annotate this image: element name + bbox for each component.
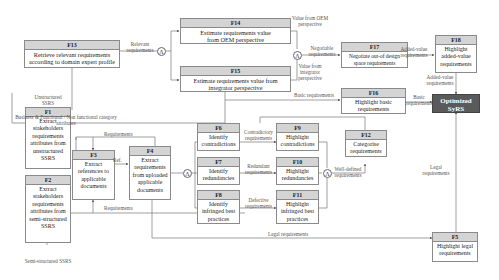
box-id: F12 xyxy=(346,131,386,140)
function-box-f10: F10 Highlight redundancies xyxy=(276,157,319,185)
box-text: Retrieve relevant requirements according… xyxy=(25,50,119,67)
label-contradictory-requirements: Contradictory requirements xyxy=(240,129,277,141)
box-id: F5 xyxy=(433,233,477,242)
label-value-from-oem: Value from OEM perspective xyxy=(292,15,328,27)
box-id: F10 xyxy=(277,158,318,167)
function-box-f16: F16 Highlight basic requirements xyxy=(341,88,406,114)
box-text: Highlight legal requirements xyxy=(433,242,477,259)
label-legal-requirements-1: Legal requirements xyxy=(268,231,308,237)
label-business-functional: Business & Functional / Non functional c… xyxy=(14,114,118,126)
function-box-f3: F3 Extract references to applicable docu… xyxy=(72,150,115,200)
function-box-f15: F15 Estimate requirements value from int… xyxy=(180,66,291,92)
box-text: Identify redundancies xyxy=(198,167,239,184)
label-well-defined-requirements: Well-defined requirements xyxy=(331,166,365,178)
box-text: Highlight redundancies xyxy=(277,167,318,184)
label-added-value-requirements-2: Added-value requirements xyxy=(420,74,460,86)
box-text: Highlight basic requirements xyxy=(342,98,405,115)
function-box-f18: F18 Highlight added-value requirements xyxy=(435,35,477,73)
label-basic-requirements-1: Basic requirements xyxy=(294,92,334,98)
output-line-2: SyRS xyxy=(434,105,478,113)
function-box-f2: F2 Extract stakeholders requirements att… xyxy=(25,175,71,243)
box-text: Extract requirements from uploaded appli… xyxy=(130,156,170,195)
function-box-f9: F9 Highlight contradictions xyxy=(276,123,319,151)
and-junction-3: Λ xyxy=(183,169,192,178)
label-value-from-integrator: Value from integrator perspective xyxy=(292,63,328,81)
box-text: Estimate requirements value from integra… xyxy=(181,76,290,93)
box-id: F7 xyxy=(198,158,239,167)
label-requirements-bottom: Requirements xyxy=(104,205,133,211)
box-text: Highlight contradictions xyxy=(277,133,318,150)
and-junction-2: Λ xyxy=(293,51,302,60)
box-text: Extract stakeholders requirements attrib… xyxy=(26,185,70,231)
function-box-f8: F8 Identify infringed best practices xyxy=(197,190,240,224)
label-added-value-requirements-1: Added-value requirements xyxy=(394,46,434,58)
label-unstructured-ssrs: Unstructured SSRS xyxy=(28,94,68,106)
label-redundant-requirements: Redundant requirements xyxy=(240,163,277,175)
box-id: F16 xyxy=(342,89,405,98)
label-relevant-requirements: Relevant requirements xyxy=(122,41,158,53)
function-box-f13: F13 Retrieve relevant requirements accor… xyxy=(24,40,120,68)
box-id: F11 xyxy=(277,191,318,200)
function-box-f4: F4 Extract requirements from uploaded ap… xyxy=(129,146,171,200)
box-text: Estimate requirements value from OEM per… xyxy=(181,28,290,45)
box-text: Identify infringed best practices xyxy=(198,200,239,224)
label-ref: Ref. xyxy=(113,157,122,163)
box-id: F9 xyxy=(277,124,318,133)
function-box-f11: F11 Highlight infringed best practices xyxy=(276,190,319,224)
function-box-f12: F12 Categorise requirements xyxy=(345,130,387,157)
box-id: F3 xyxy=(73,151,114,160)
box-text: Extract references to applicable documen… xyxy=(73,160,114,192)
output-line-1: Optimized xyxy=(434,97,478,105)
function-box-f5: F5 Highlight legal requirements xyxy=(432,232,478,262)
function-box-f6: F6 Identify contradictions xyxy=(197,123,240,151)
box-id: F4 xyxy=(130,147,170,156)
box-text: Categorise requirements xyxy=(346,140,386,157)
box-id: F18 xyxy=(436,36,476,45)
label-requirements-top: Requirements xyxy=(104,131,133,137)
box-id: F6 xyxy=(198,124,239,133)
box-id: F14 xyxy=(181,19,290,28)
box-id: F13 xyxy=(25,41,119,50)
label-basic-requirements-2: Basic requirements xyxy=(404,94,434,106)
label-semi-structured-ssrs: Semi-structured SSRS xyxy=(24,258,72,264)
label-defective-requirements: Defective requirements xyxy=(240,197,277,209)
box-text: Highlight added-value requirements xyxy=(436,45,476,69)
and-junction-1: Λ xyxy=(157,47,166,56)
function-box-f7: F7 Identify redundancies xyxy=(197,157,240,185)
function-box-f14: F14 Estimate requirements value from OEM… xyxy=(180,18,291,44)
label-negotiable-requirements: Negotiable requirements xyxy=(303,45,341,57)
box-id: F15 xyxy=(181,67,290,76)
box-id: F2 xyxy=(26,176,70,185)
label-legal-requirements-2: Legal requirements xyxy=(420,164,452,176)
box-id: F8 xyxy=(198,191,239,200)
box-text: Highlight infringed best practices xyxy=(277,200,318,224)
box-text: Identify contradictions xyxy=(198,133,239,150)
optimized-syrs-output: Optimized SyRS xyxy=(432,94,480,113)
